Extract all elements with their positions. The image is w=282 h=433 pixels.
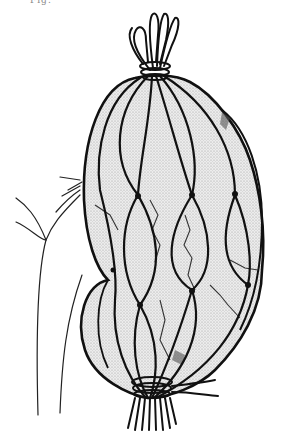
top-knot (130, 14, 179, 80)
net-bag-illustration (0, 0, 282, 433)
hand-outline (16, 177, 82, 415)
